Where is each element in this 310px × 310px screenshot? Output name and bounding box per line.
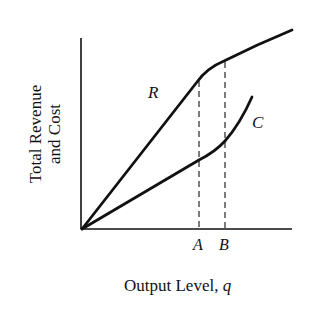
marker-label-b: B xyxy=(219,236,229,253)
y-axis-label-line2: and Cost xyxy=(45,104,64,164)
cost-curve-c xyxy=(82,97,252,229)
marker-label-a: A xyxy=(192,236,203,253)
x-axis-label-text: Output Level, xyxy=(124,276,223,295)
curve-label-r: R xyxy=(147,83,159,102)
x-axis-label-variable: q xyxy=(223,276,232,295)
diagram-canvas: R C A B Total Revenue and Cost Output Le… xyxy=(0,0,310,310)
revenue-cost-diagram: R C A B Total Revenue and Cost Output Le… xyxy=(0,0,310,310)
y-axis-label-line1: Total Revenue xyxy=(26,85,45,183)
x-axis-label: Output Level, q xyxy=(124,276,232,295)
curve-label-c: C xyxy=(252,113,264,132)
